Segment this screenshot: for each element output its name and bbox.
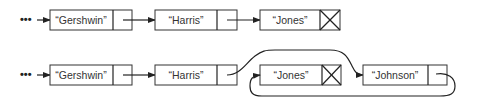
list-after: ••• “Gershwin” “Harris” “Jones” “Johnson… (20, 50, 455, 96)
linked-list-diagram: ••• “Gershwin” “Harris” “Jones” ••• (0, 0, 477, 102)
node-label: “Gershwin” (55, 69, 107, 81)
node-label: “Johnson” (372, 69, 419, 81)
node-jones: “Jones” (260, 65, 341, 85)
node-harris: “Harris” (155, 10, 237, 30)
node-label: “Harris” (169, 69, 204, 81)
continuation-dots: ••• (20, 68, 32, 80)
node-gershwin: “Gershwin” (50, 10, 132, 30)
node-label: “Harris” (169, 14, 204, 26)
node-gershwin: “Gershwin” (50, 65, 132, 85)
list-before: ••• “Gershwin” “Harris” “Jones” (20, 10, 340, 30)
node-label: “Jones” (273, 69, 309, 81)
node-label: “Gershwin” (55, 14, 107, 26)
continuation-dots: ••• (20, 13, 32, 25)
node-johnson: “Johnson” (363, 65, 447, 85)
node-harris: “Harris” (155, 65, 237, 85)
node-label: “Jones” (272, 14, 308, 26)
node-jones: “Jones” (260, 10, 340, 30)
